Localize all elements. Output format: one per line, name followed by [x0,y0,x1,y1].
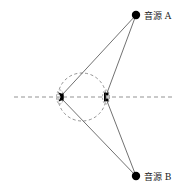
source-a-dot [132,11,140,19]
path-b-to-left-ear [62,99,136,176]
path-b-to-right-ear [107,101,136,176]
source-b-label: 音源 B [144,171,172,182]
path-a-to-left-ear [62,15,136,95]
sound-localization-diagram: 音源 A 音源 B [0,0,187,191]
source-b-dot [132,172,140,180]
source-a-label: 音源 A [144,10,172,21]
path-a-to-right-ear [107,15,136,93]
